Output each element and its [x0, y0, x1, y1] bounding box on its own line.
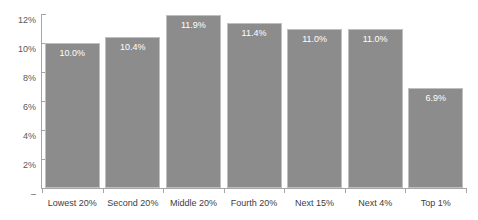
y-axis-tick: 8%	[0, 67, 42, 77]
y-axis-tick: 2%	[0, 154, 42, 164]
y-axis-tick: –	[0, 183, 42, 193]
x-axis-category-label: Top 1%	[405, 196, 466, 212]
x-axis-category-labels: Lowest 20%Second 20%Middle 20%Fourth 20%…	[42, 196, 466, 212]
y-axis-tick: 6%	[0, 96, 42, 106]
x-axis-tick-mark	[42, 188, 43, 193]
bar[interactable]: 10.0%	[45, 43, 100, 188]
y-axis-tick-label: 4%	[23, 131, 42, 141]
bar-slot: 11.4%	[224, 14, 285, 188]
bar-value-label: 10.4%	[106, 42, 159, 53]
x-axis-tick-mark	[405, 188, 406, 193]
y-axis-tick-label: 2%	[23, 160, 42, 170]
y-axis-tick: 4%	[0, 125, 42, 135]
y-axis-tick-label: 8%	[23, 73, 42, 83]
bar-value-label: 11.0%	[288, 34, 341, 45]
x-axis-tick-mark	[224, 188, 225, 193]
x-axis-category-label: Middle 20%	[163, 196, 224, 212]
y-axis-tick-label: 12%	[18, 15, 42, 25]
bar[interactable]: 11.4%	[227, 23, 282, 188]
bar-slot: 11.9%	[163, 14, 224, 188]
bar[interactable]: 11.9%	[166, 15, 221, 188]
bar[interactable]: 11.0%	[287, 29, 342, 189]
bar-slot: 11.0%	[345, 14, 406, 188]
y-axis-tick: 10%	[0, 38, 42, 48]
x-axis-category-label: Next 4%	[345, 196, 406, 212]
y-axis-tick: 12%	[0, 9, 42, 19]
bar-value-label: 11.0%	[349, 34, 402, 45]
bar-value-label: 6.9%	[409, 93, 462, 104]
x-axis-tick-group	[42, 188, 466, 193]
bar-slot: 6.9%	[405, 14, 466, 188]
x-axis-category-label: Lowest 20%	[42, 196, 103, 212]
bar-value-label: 11.9%	[167, 20, 220, 31]
bar-slot: 10.4%	[103, 14, 164, 188]
bar-slot: 11.0%	[284, 14, 345, 188]
bar[interactable]: 6.9%	[408, 88, 463, 188]
x-axis-category-label: Second 20%	[103, 196, 164, 212]
x-axis-category-label: Next 15%	[284, 196, 345, 212]
bar-series: 10.0%10.4%11.9%11.4%11.0%11.0%6.9%	[42, 14, 466, 188]
bar-slot: 10.0%	[42, 14, 103, 188]
y-axis-tick-label: 10%	[18, 44, 42, 54]
bar[interactable]: 10.4%	[105, 37, 160, 188]
bar-value-label: 10.0%	[46, 48, 99, 59]
x-axis-tick-mark	[284, 188, 285, 193]
x-axis-tick-mark	[345, 188, 346, 193]
y-axis-tick-label: –	[31, 189, 42, 199]
x-axis-tick-mark	[103, 188, 104, 193]
x-axis-category-label: Fourth 20%	[224, 196, 285, 212]
y-axis-tick-label: 6%	[23, 102, 42, 112]
bar[interactable]: 11.0%	[348, 29, 403, 189]
bar-value-label: 11.4%	[228, 28, 281, 39]
bar-chart: –2%4%6%8%10%12% 10.0%10.4%11.9%11.4%11.0…	[0, 0, 478, 220]
x-axis-tick-mark	[163, 188, 164, 193]
x-axis-tick-mark	[466, 188, 467, 193]
